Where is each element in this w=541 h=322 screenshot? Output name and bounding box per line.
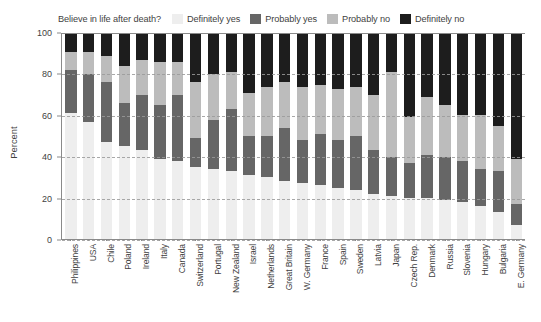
bar-segment [315, 85, 326, 134]
bar-slot[interactable] [169, 33, 187, 239]
bar-segment [190, 167, 201, 239]
bar-slot[interactable] [133, 33, 151, 239]
bar-slot[interactable] [365, 33, 383, 239]
bar-segment [119, 66, 130, 103]
bar-segment [208, 120, 219, 169]
bar-segment [332, 140, 343, 187]
bar-slot[interactable] [507, 33, 525, 239]
bar-segment [226, 33, 237, 72]
x-label-slot: Slovenia [454, 241, 472, 321]
stacked-bar[interactable] [101, 33, 112, 239]
bar-segment [350, 190, 361, 239]
bar-segment [457, 202, 468, 239]
stacked-bar[interactable] [475, 33, 486, 239]
bar-segment [439, 157, 450, 200]
legend-question-label: Believe in life after death? [58, 14, 161, 24]
y-tick-label-60: 60 [42, 111, 52, 121]
stacked-bar[interactable] [119, 33, 130, 239]
stacked-bar[interactable] [404, 33, 415, 239]
bar-segment [190, 33, 201, 82]
bar-slot[interactable] [294, 33, 312, 239]
bar-segment [279, 181, 290, 239]
bar-slot[interactable] [454, 33, 472, 239]
bar-segment [208, 169, 219, 239]
x-label-slot: Sweden [347, 241, 365, 321]
bar-segment [154, 62, 165, 105]
bar-segment [368, 95, 379, 151]
bar-segment [172, 33, 183, 62]
bar-segment [154, 105, 165, 159]
stacked-bar[interactable] [136, 33, 147, 239]
stacked-bar[interactable] [315, 33, 326, 239]
bar-segment [172, 161, 183, 239]
bar-segment [457, 161, 468, 202]
bar-slot[interactable] [222, 33, 240, 239]
bar-segment [493, 33, 504, 126]
stacked-bar[interactable] [190, 33, 201, 239]
x-label-slot: Canada [168, 241, 186, 321]
stacked-bar[interactable] [350, 33, 361, 239]
x-label-slot: Italy [150, 241, 168, 321]
bar-slot[interactable] [115, 33, 133, 239]
stacked-bar[interactable] [332, 33, 343, 239]
bar-segment [493, 126, 504, 171]
bar-segment [421, 155, 432, 198]
bar-slot[interactable] [205, 33, 223, 239]
stacked-bar[interactable] [439, 33, 450, 239]
bar-segment [154, 33, 165, 62]
bar-slot[interactable] [311, 33, 329, 239]
stacked-bar[interactable] [511, 33, 522, 239]
stacked-bar[interactable] [154, 33, 165, 239]
bar-slot[interactable] [490, 33, 508, 239]
stacked-bar[interactable] [226, 33, 237, 239]
bar-segment [279, 33, 290, 82]
bar-slot[interactable] [400, 33, 418, 239]
bar-segment [511, 225, 522, 239]
bar-slot[interactable] [347, 33, 365, 239]
bar-segment [421, 97, 432, 155]
bar-segment [404, 198, 415, 239]
bar-slot[interactable] [472, 33, 490, 239]
bar-slot[interactable] [62, 33, 80, 239]
stacked-bar[interactable] [65, 33, 76, 239]
bar-segment [386, 196, 397, 239]
x-label-slot: Hungary [471, 241, 489, 321]
x-label-slot: Russia [436, 241, 454, 321]
bar-segment [243, 33, 254, 93]
stacked-bar[interactable] [243, 33, 254, 239]
bar-segment [332, 188, 343, 240]
bar-segment [404, 33, 415, 117]
bar-slot[interactable] [240, 33, 258, 239]
stacked-bar[interactable] [493, 33, 504, 239]
bar-slot[interactable] [80, 33, 98, 239]
bar-slot[interactable] [276, 33, 294, 239]
stacked-bar[interactable] [172, 33, 183, 239]
stacked-bar[interactable] [421, 33, 432, 239]
bar-slot[interactable] [436, 33, 454, 239]
stacked-bar[interactable] [83, 33, 94, 239]
bar-slot[interactable] [151, 33, 169, 239]
bar-slot[interactable] [418, 33, 436, 239]
stacked-bar[interactable] [261, 33, 272, 239]
bar-slot[interactable] [98, 33, 116, 239]
stacked-bar[interactable] [368, 33, 379, 239]
bar-segment [511, 204, 522, 225]
bar-slot[interactable] [187, 33, 205, 239]
y-tick-label-0: 0 [47, 235, 52, 245]
bar-segment [297, 183, 308, 239]
bar-segment [421, 198, 432, 239]
bar-segment [493, 212, 504, 239]
stacked-bar[interactable] [457, 33, 468, 239]
bar-slot[interactable] [258, 33, 276, 239]
stacked-bar[interactable] [208, 33, 219, 239]
bar-segment [439, 200, 450, 239]
bar-slot[interactable] [383, 33, 401, 239]
stacked-bar[interactable] [279, 33, 290, 239]
bar-segment [457, 33, 468, 115]
bar-slot[interactable] [329, 33, 347, 239]
x-label-slot: Denmark [418, 241, 436, 321]
bar-segment [65, 70, 76, 113]
stacked-bar[interactable] [386, 33, 397, 239]
stacked-bar[interactable] [297, 33, 308, 239]
bar-segment [279, 128, 290, 182]
